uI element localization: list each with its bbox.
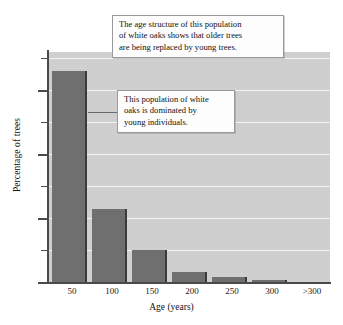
x-tick-label-50: 50 xyxy=(52,286,92,296)
y-tick-30 xyxy=(41,186,48,187)
x-tick-label-250: 250 xyxy=(212,286,252,296)
x-axis-line xyxy=(47,282,331,284)
callout-2-line-1: This population of white xyxy=(124,94,229,105)
gridline xyxy=(49,186,330,187)
callout-2-line-3: young individuals. xyxy=(124,117,229,128)
gridline xyxy=(49,154,330,155)
callout-2-leader-line xyxy=(88,112,118,113)
chart-figure: 0 20 40 60 50 100 150 200 250 300 >300 P… xyxy=(0,0,343,325)
callout-1-line-1: The age structure of this population xyxy=(119,19,278,30)
callout-1-line-3: are being replaced by young trees. xyxy=(119,42,278,53)
bar-100 xyxy=(92,209,127,282)
y-tick-20 xyxy=(38,218,48,220)
annotation-callout-age-structure: The age structure of this population of … xyxy=(112,15,284,58)
x-tick-label-100: 100 xyxy=(92,286,132,296)
y-axis-line xyxy=(47,50,49,284)
x-tick-label-200: 200 xyxy=(172,286,212,296)
bar-200 xyxy=(172,272,207,282)
y-tick-50 xyxy=(41,122,48,123)
x-tick-label-150: 150 xyxy=(132,286,172,296)
y-axis-title: Percentage of trees xyxy=(12,95,22,215)
gridline xyxy=(49,58,330,59)
bar-150 xyxy=(132,250,167,282)
x-tick-label-over-300: >300 xyxy=(292,286,332,296)
y-tick-60 xyxy=(38,90,48,92)
y-tick-0 xyxy=(38,282,48,284)
callout-1-line-2: of white oaks shows that older trees xyxy=(119,30,278,41)
y-tick-40 xyxy=(38,154,48,156)
plot-area xyxy=(49,52,330,282)
bar-50 xyxy=(52,71,87,282)
y-tick-10 xyxy=(41,250,48,251)
x-tick-label-300: 300 xyxy=(252,286,292,296)
annotation-callout-young-individuals: This population of white oaks is dominat… xyxy=(117,90,235,133)
x-axis-title: Age (years) xyxy=(0,302,343,312)
callout-2-line-2: oaks is dominated by xyxy=(124,105,229,116)
y-tick-70 xyxy=(41,58,48,59)
